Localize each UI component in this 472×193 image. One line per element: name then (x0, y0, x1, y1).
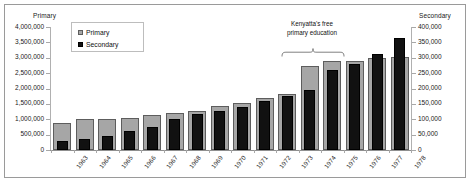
bar-group (188, 27, 206, 150)
right-axis-tick (412, 150, 416, 151)
x-axis-tick (254, 150, 255, 153)
bar-group (166, 27, 184, 150)
bar-secondary (394, 38, 405, 150)
left-axis-tick (46, 150, 50, 151)
right-axis-tick (412, 42, 416, 43)
x-axis-tick-label: 1964 (97, 154, 111, 170)
legend-label-secondary: Secondary (86, 41, 119, 48)
x-axis-tick-label: 1968 (187, 154, 201, 170)
left-axis-tick (46, 104, 50, 105)
right-axis-tick (412, 135, 416, 136)
right-axis-tick (412, 119, 416, 120)
left-axis-tick-label: 500,000 (21, 131, 45, 138)
bar-secondary (327, 70, 338, 150)
bar-group (278, 27, 296, 150)
chart-caption (4, 180, 466, 193)
bar-group (211, 27, 229, 150)
x-axis-tick-label: 1965 (120, 154, 134, 170)
left-axis-tick (46, 27, 50, 28)
bar-group (391, 27, 409, 150)
left-axis-tick (46, 58, 50, 59)
x-axis-tick (389, 150, 390, 153)
x-axis-tick (231, 150, 232, 153)
bar-group (256, 27, 274, 150)
legend-item-secondary: Secondary (78, 38, 143, 50)
right-axis-tick (412, 58, 416, 59)
right-axis-tick-label: 150,000 (418, 100, 442, 107)
right-axis-tick-label: 400,000 (418, 24, 442, 31)
left-axis-tick (46, 135, 50, 136)
right-axis-tick-label: 200,000 (418, 85, 442, 92)
right-axis-tick-label: 0 (418, 147, 422, 154)
x-axis-tick (74, 150, 75, 153)
legend-label-primary: Primary (86, 29, 109, 36)
x-axis-tick-label: 1967 (165, 154, 179, 170)
secondary-axis-title: Secondary (419, 12, 451, 19)
x-axis-tick-label: 1971 (255, 154, 269, 170)
bar-secondary (169, 119, 180, 150)
chart-screenshot: Primary Secondary 4,000,0003,500,0003,00… (0, 0, 472, 193)
x-axis-tick-label: 1978 (412, 154, 426, 170)
legend-swatch-primary-icon (78, 30, 83, 35)
right-axis-tick (412, 89, 416, 90)
x-axis-tick (96, 150, 97, 153)
x-axis-tick (321, 150, 322, 153)
bar-group (233, 27, 251, 150)
chart-legend: Primary Secondary (71, 22, 144, 52)
x-axis-tick-label: 1975 (345, 154, 359, 170)
x-axis-tick (119, 150, 120, 153)
bar-group (53, 27, 71, 150)
x-axis-tick-label: 1972 (277, 154, 291, 170)
bar-secondary (214, 111, 225, 150)
right-axis-tick-label: 350,000 (418, 39, 442, 46)
right-axis-tick-label: 250,000 (418, 70, 442, 77)
x-axis-tick-label: 1977 (390, 154, 404, 170)
legend-swatch-secondary-icon (78, 42, 83, 47)
bar-secondary (304, 90, 315, 150)
x-axis-tick (209, 150, 210, 153)
right-axis-tick-label: 50,000 (418, 131, 438, 138)
x-axis-tick (141, 150, 142, 153)
left-axis-tick-label: 2,500,000 (15, 70, 44, 77)
x-axis-tick-label: 1963 (75, 154, 89, 170)
bar-secondary (237, 107, 248, 150)
bar-secondary (79, 139, 90, 150)
x-axis-tick (299, 150, 300, 153)
annotation-text: Kenyatta's free primary education (257, 20, 367, 37)
left-axis-tick (46, 119, 50, 120)
x-axis-tick (51, 150, 52, 153)
primary-axis-title: Primary (33, 12, 56, 19)
right-axis-tick (412, 27, 416, 28)
bar-group (143, 27, 161, 150)
x-axis-tick-label: 1974 (322, 154, 336, 170)
bar-secondary (147, 127, 158, 150)
bar-secondary (372, 54, 383, 150)
bar-secondary (124, 131, 135, 150)
bar-group (368, 27, 386, 150)
left-axis-tick-label: 3,500,000 (15, 39, 44, 46)
left-axis-tick-label: 4,000,000 (15, 24, 44, 31)
x-axis-tick (276, 150, 277, 153)
left-axis-tick-label: 3,000,000 (15, 54, 44, 61)
x-axis-tick-label: 1970 (232, 154, 246, 170)
curly-brace-icon (281, 48, 345, 57)
bar-secondary (102, 136, 113, 150)
left-axis-tick-label: 1,500,000 (15, 100, 44, 107)
x-axis-tick-label: 1969 (210, 154, 224, 170)
bar-secondary (349, 64, 360, 150)
x-axis-tick (366, 150, 367, 153)
right-axis-tick-label: 100,000 (418, 116, 442, 123)
left-axis-tick (46, 42, 50, 43)
x-axis-tick (186, 150, 187, 153)
x-axis-tick (411, 150, 412, 153)
left-axis-tick (46, 89, 50, 90)
x-axis-tick (164, 150, 165, 153)
right-axis-tick (412, 104, 416, 105)
x-axis-tick-label: 1973 (300, 154, 314, 170)
right-axis-tick (412, 73, 416, 74)
bar-group (346, 27, 364, 150)
left-axis-tick-label: 2,000,000 (15, 85, 44, 92)
bar-secondary (282, 96, 293, 150)
bar-group (301, 27, 319, 150)
x-axis-tick-label: 1976 (367, 154, 381, 170)
